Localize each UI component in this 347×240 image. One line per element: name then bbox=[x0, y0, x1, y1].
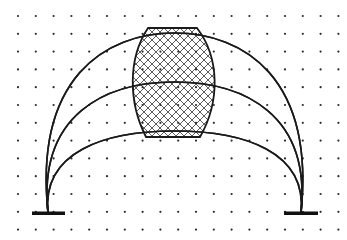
grid-dot bbox=[53, 229, 55, 231]
grid-dot bbox=[35, 175, 37, 177]
grid-dot bbox=[159, 157, 161, 159]
grid-dot bbox=[248, 33, 250, 35]
grid-dot bbox=[17, 140, 19, 142]
grid-dot bbox=[213, 193, 215, 195]
grid-dot bbox=[337, 122, 339, 124]
grid-dot bbox=[320, 229, 322, 231]
grid-dot bbox=[142, 193, 144, 195]
grid-dot bbox=[231, 51, 233, 53]
grid-dot bbox=[35, 33, 37, 35]
grid-dot bbox=[337, 140, 339, 142]
grid-dot bbox=[88, 140, 90, 142]
grid-dot bbox=[284, 140, 286, 142]
grid-dot bbox=[266, 104, 268, 106]
grid-dot bbox=[284, 157, 286, 159]
grid-dot bbox=[320, 104, 322, 106]
grid-dot bbox=[266, 33, 268, 35]
grid-dot bbox=[159, 193, 161, 195]
grid-dot bbox=[17, 229, 19, 231]
grid-dot bbox=[213, 15, 215, 17]
grid-dot bbox=[88, 86, 90, 88]
grid-dot bbox=[106, 193, 108, 195]
inner-arch bbox=[48, 131, 302, 213]
grid-dot bbox=[106, 104, 108, 106]
grid-dot bbox=[53, 68, 55, 70]
grid-dot bbox=[266, 193, 268, 195]
grid-dot bbox=[320, 175, 322, 177]
grid-dot bbox=[124, 51, 126, 53]
hatched-barrel bbox=[46, 28, 303, 213]
grid-dot bbox=[337, 86, 339, 88]
grid-dot bbox=[266, 15, 268, 17]
grid-dot bbox=[266, 229, 268, 231]
grid-dot bbox=[195, 15, 197, 17]
grid-dot bbox=[106, 15, 108, 17]
grid-dot bbox=[248, 15, 250, 17]
grid-dot bbox=[337, 104, 339, 106]
grid-dot bbox=[35, 15, 37, 17]
grid-dot bbox=[248, 157, 250, 159]
grid-dot bbox=[177, 211, 179, 213]
grid-dot bbox=[320, 122, 322, 124]
grid-dot bbox=[17, 51, 19, 53]
grid-dot bbox=[284, 33, 286, 35]
grid-dot bbox=[337, 175, 339, 177]
grid-dot bbox=[142, 211, 144, 213]
grid-dot bbox=[266, 211, 268, 213]
inner-arch-overlay bbox=[48, 131, 302, 213]
grid-dot bbox=[35, 68, 37, 70]
grid-dot bbox=[159, 229, 161, 231]
left-base bbox=[32, 212, 65, 216]
grid-dot bbox=[88, 15, 90, 17]
grid-dot bbox=[124, 211, 126, 213]
grid-dot bbox=[88, 193, 90, 195]
grid-dot bbox=[159, 211, 161, 213]
grid-dot bbox=[284, 229, 286, 231]
grid-dot bbox=[213, 157, 215, 159]
grid-dot bbox=[177, 193, 179, 195]
grid-dot bbox=[17, 104, 19, 106]
grid-dot bbox=[88, 122, 90, 124]
grid-dot bbox=[248, 211, 250, 213]
grid-dot bbox=[106, 157, 108, 159]
grid-dot bbox=[142, 175, 144, 177]
grid-dot bbox=[70, 175, 72, 177]
grid-dot bbox=[124, 68, 126, 70]
grid-dot bbox=[284, 193, 286, 195]
grid-dot bbox=[266, 157, 268, 159]
grid-dot bbox=[17, 211, 19, 213]
grid-dot bbox=[337, 157, 339, 159]
grid-dot bbox=[195, 211, 197, 213]
grid-dot bbox=[35, 122, 37, 124]
grid-dot bbox=[195, 229, 197, 231]
grid-dot bbox=[231, 104, 233, 106]
grid-dot bbox=[231, 140, 233, 142]
grid-dot bbox=[159, 15, 161, 17]
grid-dot bbox=[35, 140, 37, 142]
grid-dot bbox=[124, 140, 126, 142]
grid-dot bbox=[284, 51, 286, 53]
grid-dot bbox=[213, 51, 215, 53]
grid-dot bbox=[88, 68, 90, 70]
grid-dot bbox=[70, 51, 72, 53]
grid-dot bbox=[70, 140, 72, 142]
grid-dot bbox=[231, 157, 233, 159]
grid-dot bbox=[302, 104, 304, 106]
grid-dot bbox=[17, 68, 19, 70]
grid-dot bbox=[124, 104, 126, 106]
grid-dot bbox=[284, 15, 286, 17]
grid-dot bbox=[106, 68, 108, 70]
grid-dot bbox=[88, 33, 90, 35]
grid-dot bbox=[302, 229, 304, 231]
grid-dot bbox=[284, 104, 286, 106]
grid-dot bbox=[320, 33, 322, 35]
grid-dot bbox=[266, 140, 268, 142]
grid-dot bbox=[266, 51, 268, 53]
grid-dot bbox=[35, 193, 37, 195]
grid-dot bbox=[248, 175, 250, 177]
grid-dot bbox=[70, 86, 72, 88]
grid-dot bbox=[88, 51, 90, 53]
grid-dot bbox=[53, 157, 55, 159]
grid-dot bbox=[266, 86, 268, 88]
grid-dot bbox=[70, 15, 72, 17]
